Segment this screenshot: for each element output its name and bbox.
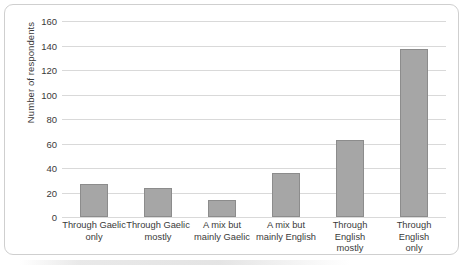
- bar[interactable]: [208, 200, 236, 217]
- y-tick-label: 80: [46, 114, 57, 125]
- y-tick-label: 20: [46, 187, 57, 198]
- bar-slot: [318, 21, 382, 217]
- bar[interactable]: [272, 173, 300, 217]
- bar-slot: [62, 21, 126, 217]
- scan-artifact: [20, 260, 350, 265]
- x-axis-label-line1: Through English: [382, 220, 446, 243]
- x-axis-label-line1: A mix but: [254, 220, 318, 232]
- bar[interactable]: [400, 49, 428, 217]
- x-axis-label: Through Gaelicmostly: [126, 220, 190, 243]
- y-tick-label: 0: [52, 212, 57, 223]
- x-axis-label-line2: mostly: [318, 243, 382, 255]
- plot-area: 160140120100806040200: [62, 21, 446, 217]
- bars-layer: [62, 21, 446, 217]
- y-tick-label: 60: [46, 138, 57, 149]
- x-axis-label-line2: only: [382, 243, 446, 255]
- x-axis-label-line1: Through English: [318, 220, 382, 243]
- x-axis-label-line1: A mix but: [190, 220, 254, 232]
- bar-slot: [254, 21, 318, 217]
- bar-slot: [190, 21, 254, 217]
- y-tick-label: 140: [41, 40, 57, 51]
- x-axis-label-line2: mainly Gaelic: [190, 232, 254, 244]
- bar-slot: [126, 21, 190, 217]
- x-axis-label: Through Gaeliconly: [62, 220, 126, 243]
- chart-frame: Number of respondents 160140120100806040…: [4, 4, 459, 255]
- x-axis-label-line2: only: [62, 232, 126, 244]
- x-axis-label: Through Englishmostly: [318, 220, 382, 255]
- x-axis-label: A mix butmainly English: [254, 220, 318, 243]
- bar[interactable]: [336, 140, 364, 217]
- x-axis-label: Through Englishonly: [382, 220, 446, 255]
- bar[interactable]: [144, 188, 172, 217]
- x-axis-label-line1: Through Gaelic: [62, 220, 126, 232]
- y-tick-label: 100: [41, 89, 57, 100]
- gridline: 0: [62, 217, 446, 218]
- y-tick-label: 120: [41, 65, 57, 76]
- x-axis-labels: Through GaeliconlyThrough GaelicmostlyA …: [62, 220, 446, 254]
- y-tick-label: 40: [46, 163, 57, 174]
- x-axis-label: A mix butmainly Gaelic: [190, 220, 254, 243]
- bar[interactable]: [80, 184, 108, 217]
- x-axis-label-line1: Through Gaelic: [126, 220, 190, 232]
- y-tick-label: 160: [41, 16, 57, 27]
- x-axis-label-line2: mainly English: [254, 232, 318, 244]
- x-axis-label-line2: mostly: [126, 232, 190, 244]
- bar-slot: [382, 21, 446, 217]
- y-axis-title: Number of respondents: [25, 3, 36, 143]
